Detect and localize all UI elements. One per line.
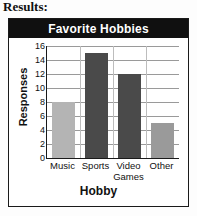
x-tick-label: VideoGames bbox=[112, 161, 145, 182]
x-axis-title: Hobby bbox=[9, 184, 188, 198]
y-tick-label: 0 bbox=[27, 154, 45, 163]
y-tick-label: 12 bbox=[27, 70, 45, 79]
category-separator bbox=[80, 46, 81, 158]
chart-title: Favorite Hobbies bbox=[48, 22, 149, 36]
results-heading: Results: bbox=[3, 0, 48, 15]
x-tick-label-line: Sports bbox=[79, 161, 112, 172]
bar bbox=[85, 53, 108, 158]
category-separator bbox=[146, 46, 147, 158]
category-separator bbox=[113, 46, 114, 158]
bar bbox=[52, 102, 75, 158]
bar bbox=[118, 74, 141, 158]
y-tick-label: 2 bbox=[27, 140, 45, 149]
screenshot-root: Results: Favorite Hobbies Responses 0246… bbox=[0, 0, 197, 216]
x-tick-label-line: Video bbox=[112, 161, 145, 172]
y-tick-label: 8 bbox=[27, 98, 45, 107]
x-tick-label: Sports bbox=[79, 161, 112, 172]
x-tick-label-line: Music bbox=[46, 161, 79, 172]
x-tick-label: Other bbox=[145, 161, 178, 172]
x-tick-label-line: Other bbox=[145, 161, 178, 172]
x-tick-label: Music bbox=[46, 161, 79, 172]
y-tick-label: 14 bbox=[27, 56, 45, 65]
y-tick-label: 10 bbox=[27, 84, 45, 93]
plot-area bbox=[46, 46, 179, 159]
y-tick-label: 16 bbox=[27, 42, 45, 51]
y-tick-label: 4 bbox=[27, 126, 45, 135]
y-tick-label: 6 bbox=[27, 112, 45, 121]
y-axis-tick-labels: 0246810121416 bbox=[27, 46, 45, 158]
chart-title-bar: Favorite Hobbies bbox=[9, 19, 188, 38]
bar bbox=[151, 123, 174, 158]
chart-card: Favorite Hobbies Responses 0246810121416… bbox=[8, 18, 189, 207]
x-tick-label-line: Games bbox=[112, 172, 145, 183]
